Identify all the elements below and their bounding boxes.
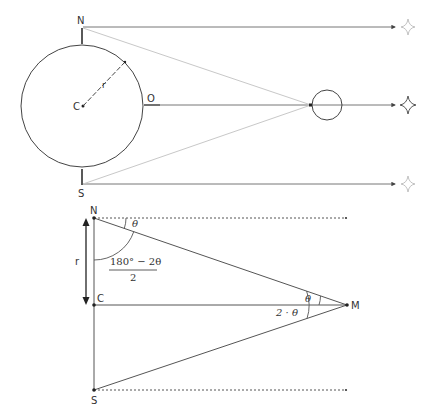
label-north-top: N xyxy=(77,15,84,26)
radius-endpoint xyxy=(124,61,126,63)
label-south-top: S xyxy=(78,188,84,199)
label-moon: M xyxy=(351,300,360,311)
point-n xyxy=(92,216,96,220)
parallax-diagram: N S C O r N C S xyxy=(0,0,435,419)
label-theta-m: θ xyxy=(305,293,311,304)
label-radius-top: r xyxy=(102,80,106,90)
label-theta-north: θ xyxy=(132,218,138,229)
top-diagram: N S C O r xyxy=(21,15,416,199)
south-moon-line xyxy=(94,305,347,390)
bottom-diagram: N C S M r θ 180° − 2θ 2 θ 2 · θ xyxy=(75,205,360,406)
label-center-top: C xyxy=(73,101,80,112)
label-two-theta: 2 · θ xyxy=(275,307,298,318)
label-radius-bottom: r xyxy=(75,256,80,267)
moon-point xyxy=(309,104,312,107)
south-to-moon-line xyxy=(83,105,311,184)
label-north-bottom: N xyxy=(90,205,97,216)
label-center-bottom: C xyxy=(97,293,104,304)
label-angle-fraction-numerator: 180° − 2θ xyxy=(110,256,161,267)
star-icon xyxy=(400,96,416,114)
north-to-moon-line xyxy=(83,28,311,105)
arrow-up-icon xyxy=(83,218,90,226)
point-m xyxy=(345,303,349,307)
star-icon xyxy=(401,176,415,192)
south-dotted-end xyxy=(345,389,347,391)
label-angle-fraction-denominator: 2 xyxy=(130,272,136,283)
theta-arc-north xyxy=(124,218,126,228)
star-icon xyxy=(401,19,415,35)
theta-arc-m xyxy=(319,296,321,305)
point-c xyxy=(92,303,96,307)
north-dotted-end xyxy=(345,217,347,219)
arrow-down-icon xyxy=(83,297,90,305)
label-south-bottom: S xyxy=(91,395,97,406)
point-s xyxy=(92,388,96,392)
label-observer: O xyxy=(147,93,155,104)
